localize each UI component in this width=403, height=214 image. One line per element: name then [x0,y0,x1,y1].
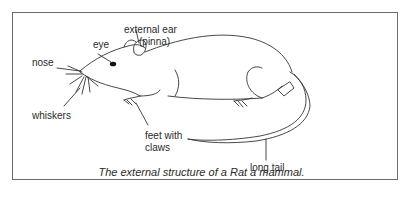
label-external-ear: external ear [124,24,177,35]
diagram-caption: The external structure of a Rat a mammal… [0,166,403,178]
label-eye: eye [93,39,109,50]
label-feet: feet with [145,130,182,141]
label-claws: claws [145,142,170,153]
rat-illustration [0,0,403,214]
label-pinna: (pinna) [139,36,170,47]
label-whiskers: whiskers [32,110,71,121]
label-nose: nose [32,57,54,68]
